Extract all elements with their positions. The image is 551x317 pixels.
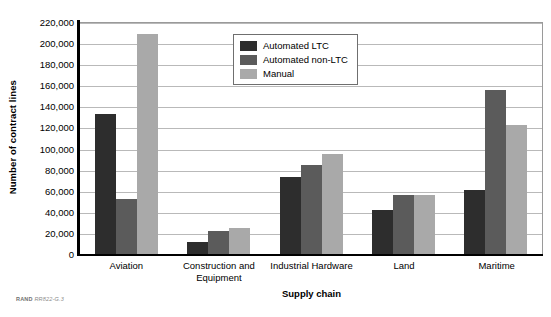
legend-swatch — [240, 69, 257, 79]
bar[interactable] — [393, 195, 414, 254]
y-axis-tick-labels: 220,000200,000180,000160,000140,000120,0… — [20, 22, 78, 254]
bar[interactable] — [229, 228, 250, 254]
bar[interactable] — [137, 34, 158, 254]
y-axis-tick-label: 180,000 — [40, 59, 74, 70]
y-axis-tick-label: 200,000 — [40, 38, 74, 49]
bar[interactable] — [208, 231, 229, 254]
x-axis-category-label: Aviation — [80, 258, 173, 292]
bar-group — [450, 23, 542, 254]
bar[interactable] — [280, 177, 301, 254]
credit-org: RAND — [16, 296, 33, 302]
y-axis-title-text: Number of contract lines — [7, 80, 18, 194]
bar[interactable] — [372, 210, 393, 254]
bar[interactable] — [116, 199, 137, 254]
y-axis-tick-label: 100,000 — [40, 143, 74, 154]
chart-legend: Automated LTCAutomated non-LTCManual — [233, 34, 358, 85]
y-axis-tick-label: 40,000 — [45, 206, 74, 217]
y-axis-title: Number of contract lines — [2, 0, 22, 275]
credit-code: RR822-G.3 — [34, 296, 64, 302]
y-axis-tick-label: 220,000 — [40, 17, 74, 28]
bar[interactable] — [506, 125, 527, 254]
bar-group — [357, 23, 449, 254]
x-axis-category-labels: AviationConstruction and EquipmentIndust… — [80, 258, 543, 292]
bar[interactable] — [95, 114, 116, 254]
y-axis-tick-label: 80,000 — [45, 164, 74, 175]
x-axis-category-label: Land — [358, 258, 451, 292]
legend-item[interactable]: Manual — [240, 68, 348, 79]
y-axis-tick-label: 0 — [69, 249, 74, 260]
legend-swatch — [240, 55, 257, 65]
y-axis-tick-label: 60,000 — [45, 185, 74, 196]
legend-item[interactable]: Automated non-LTC — [240, 54, 348, 65]
x-axis-category-label: Maritime — [450, 258, 543, 292]
bar[interactable] — [485, 90, 506, 255]
bar[interactable] — [464, 190, 485, 254]
legend-item[interactable]: Automated LTC — [240, 40, 348, 51]
x-axis-title: Supply chain — [80, 288, 543, 299]
legend-label: Automated non-LTC — [263, 54, 348, 65]
x-axis-category-label: Construction and Equipment — [173, 258, 266, 292]
y-axis-tick-label: 120,000 — [40, 122, 74, 133]
y-axis-tick-label: 160,000 — [40, 80, 74, 91]
legend-label: Automated LTC — [263, 40, 329, 51]
bar[interactable] — [187, 242, 208, 254]
bar[interactable] — [301, 165, 322, 254]
bar-group — [80, 23, 172, 254]
figure-credit: RAND RR822-G.3 — [16, 296, 64, 302]
bar[interactable] — [414, 195, 435, 254]
figure-container: Number of contract lines 220,000200,0001… — [0, 0, 551, 317]
y-axis-tick-label: 20,000 — [45, 227, 74, 238]
y-axis-tick-label: 140,000 — [40, 101, 74, 112]
legend-swatch — [240, 41, 257, 51]
x-axis-category-label: Industrial Hardware — [265, 258, 358, 292]
bar[interactable] — [322, 154, 343, 254]
legend-label: Manual — [263, 68, 294, 79]
